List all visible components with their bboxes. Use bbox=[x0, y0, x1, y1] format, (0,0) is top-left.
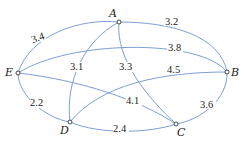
node-label-A: A bbox=[108, 7, 117, 20]
node-B bbox=[225, 70, 229, 74]
weighted-graph-diagram: 3.4 3.2 3.8 3.1 3.3 4.5 4.1 2.2 2.4 3.6 … bbox=[0, 0, 242, 143]
weight-E-C: 4.1 bbox=[126, 95, 139, 106]
node-A bbox=[117, 20, 121, 24]
weight-A-B: 3.2 bbox=[165, 16, 178, 27]
node-label-B: B bbox=[230, 66, 239, 79]
weight-D-C: 2.4 bbox=[113, 123, 127, 134]
weight-E-D: 2.2 bbox=[30, 97, 43, 108]
weight-A-C: 3.3 bbox=[119, 61, 132, 72]
edge-D-B bbox=[70, 72, 227, 122]
weight-A-D: 3.1 bbox=[70, 61, 83, 72]
weight-E-B: 3.8 bbox=[168, 42, 181, 53]
weight-D-B: 4.5 bbox=[167, 64, 180, 75]
graph-svg: 3.4 3.2 3.8 3.1 3.3 4.5 4.1 2.2 2.4 3.6 … bbox=[0, 0, 242, 143]
weight-B-C: 3.6 bbox=[200, 99, 213, 110]
node-label-E: E bbox=[4, 66, 13, 79]
node-E bbox=[16, 71, 20, 75]
node-label-D: D bbox=[59, 124, 69, 137]
edge-B-C bbox=[176, 72, 227, 124]
node-label-C: C bbox=[177, 126, 186, 139]
